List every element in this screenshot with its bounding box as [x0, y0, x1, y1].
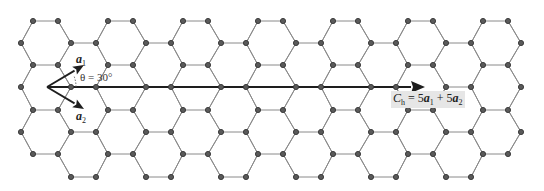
carbon-atom — [405, 62, 410, 67]
bond — [471, 65, 483, 87]
bond — [283, 87, 296, 110]
bond — [321, 132, 333, 154]
bond — [508, 87, 521, 110]
bond — [246, 110, 258, 132]
bond — [133, 154, 146, 177]
carbon-atom — [393, 174, 398, 179]
carbon-atom — [368, 129, 373, 134]
carbon-atom — [105, 62, 110, 67]
bond — [21, 110, 33, 132]
bond — [433, 154, 446, 177]
bond — [246, 132, 258, 154]
bond — [246, 87, 258, 110]
bond — [508, 21, 521, 43]
bond — [321, 154, 333, 177]
bond — [208, 110, 221, 132]
carbon-atom — [368, 84, 373, 89]
bond — [283, 43, 296, 65]
bond — [471, 43, 483, 65]
bond — [283, 21, 296, 43]
carbon-atom — [93, 174, 98, 179]
carbon-atom — [143, 84, 148, 89]
a2-subscript: 2 — [82, 116, 86, 125]
carbon-atom — [318, 40, 323, 45]
bond — [358, 154, 371, 177]
carbon-atom — [318, 84, 323, 89]
bond — [433, 132, 446, 154]
carbon-atom — [130, 18, 135, 23]
carbon-atom — [480, 18, 485, 23]
carbon-atom — [55, 151, 60, 156]
carbon-atom — [293, 174, 298, 179]
carbon-atom — [318, 129, 323, 134]
carbon-atom — [505, 18, 510, 23]
carbon-atom — [180, 107, 185, 112]
carbon-atom — [468, 40, 473, 45]
ch-symbol: C — [393, 91, 401, 105]
bond — [171, 132, 183, 154]
bond — [283, 110, 296, 132]
bond — [133, 87, 146, 110]
bond — [21, 43, 33, 65]
ch-plus: + 5 — [434, 91, 453, 105]
bond — [358, 43, 371, 65]
bond — [58, 87, 71, 110]
carbon-atom — [405, 107, 410, 112]
carbon-atom — [280, 62, 285, 67]
carbon-atom — [130, 151, 135, 156]
bond — [133, 110, 146, 132]
carbon-atom — [368, 40, 373, 45]
carbon-atom — [293, 129, 298, 134]
bond — [21, 132, 33, 154]
bond — [208, 154, 221, 177]
bond — [471, 110, 483, 132]
bond — [471, 132, 483, 154]
carbon-atom — [280, 18, 285, 23]
carbon-atom — [393, 129, 398, 134]
carbon-atom — [518, 40, 523, 45]
bond — [58, 21, 71, 43]
bond — [321, 43, 333, 65]
bond — [396, 132, 408, 154]
carbon-atom — [18, 129, 23, 134]
carbon-atom — [168, 84, 173, 89]
carbon-atom — [105, 18, 110, 23]
carbon-atom — [68, 129, 73, 134]
bond — [433, 65, 446, 87]
carbon-atom — [468, 129, 473, 134]
carbon-atom — [218, 129, 223, 134]
ch-a2-sub: 2 — [459, 98, 463, 107]
carbon-atom — [280, 151, 285, 156]
bond — [508, 110, 521, 132]
bond — [96, 132, 108, 154]
carbon-atom — [443, 40, 448, 45]
carbon-atom — [218, 40, 223, 45]
bond — [321, 110, 333, 132]
carbon-atom — [243, 174, 248, 179]
carbon-atom — [168, 129, 173, 134]
bond — [246, 65, 258, 87]
bond — [133, 132, 146, 154]
carbon-atom — [30, 107, 35, 112]
carbon-atom — [93, 84, 98, 89]
chiral-vector-label: Ch = 5a1 + 5a2 — [391, 91, 465, 108]
carbon-atom — [405, 151, 410, 156]
carbon-atom — [180, 18, 185, 23]
bond — [58, 110, 71, 132]
bond — [58, 43, 71, 65]
carbon-atom — [505, 107, 510, 112]
bond — [171, 87, 183, 110]
carbon-atom — [255, 107, 260, 112]
carbon-atom — [430, 18, 435, 23]
carbon-atom — [205, 107, 210, 112]
carbon-atom — [205, 18, 210, 23]
carbon-atom — [443, 174, 448, 179]
carbon-atom — [143, 174, 148, 179]
carbon-atom — [218, 174, 223, 179]
bond — [396, 43, 408, 65]
ch-equals: = 5 — [405, 91, 424, 105]
carbon-atom — [205, 62, 210, 67]
carbon-atom — [218, 84, 223, 89]
carbon-atom — [355, 62, 360, 67]
bond — [171, 154, 183, 177]
